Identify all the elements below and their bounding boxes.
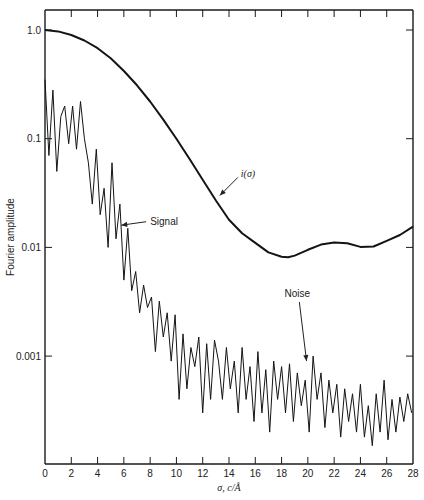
x-axis-label: σ, c/Å: [217, 482, 241, 493]
signal-annotation-label: Signal: [150, 216, 178, 227]
noise-arrowhead-icon: [303, 355, 308, 361]
x-tick-label: 0: [42, 468, 48, 479]
x-tick-label: 26: [381, 468, 393, 479]
y-tick-label: 0.1: [27, 133, 41, 144]
signal-arrowhead-icon: [121, 222, 127, 227]
x-tick-label: 10: [171, 468, 183, 479]
x-tick-label: 20: [302, 468, 314, 479]
series-layer: [45, 30, 413, 446]
x-tick-label: 16: [250, 468, 262, 479]
noise-arrow-icon: [299, 302, 306, 361]
x-tick-label: 18: [276, 468, 288, 479]
series-i-sigma-line: [45, 30, 413, 257]
x-tick-label: 12: [197, 468, 209, 479]
x-tick-label: 2: [69, 468, 75, 479]
x-tick-label: 8: [147, 468, 153, 479]
fourier-amplitude-chart: 0246810121416182022242628 1.00.10.010.00…: [0, 0, 424, 500]
y-tick-label: 0.001: [16, 351, 41, 362]
plot-frame: [45, 10, 413, 464]
x-tick-label: 4: [95, 468, 101, 479]
annotations: i(σ)SignalNoise: [121, 168, 310, 361]
series-signal-noise-line: [45, 80, 412, 446]
y-tick-label: 1.0: [27, 25, 41, 36]
x-tick-label: 24: [355, 468, 367, 479]
i-sigma-annotation-label: i(σ): [241, 168, 256, 180]
noise-annotation-label: Noise: [285, 288, 311, 299]
y-tick-label: 0.01: [22, 242, 42, 253]
y-axis-ticks: 1.00.10.010.001: [16, 25, 413, 362]
x-tick-label: 22: [329, 468, 341, 479]
x-tick-label: 6: [121, 468, 127, 479]
x-tick-label: 28: [407, 468, 419, 479]
x-tick-label: 14: [223, 468, 235, 479]
y-axis-label: Fourier amplitude: [5, 198, 16, 276]
